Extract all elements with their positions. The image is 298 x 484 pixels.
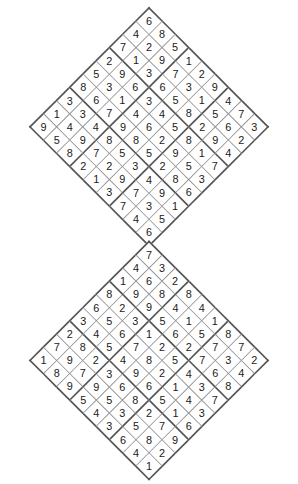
sudoku-digit: 6 [140,223,158,241]
sudoku-grid-bottom[interactable]: 7328418724684157341995627688231254376567… [29,240,269,480]
sudoku-digit: 1 [140,457,158,475]
sudoku-grid-top[interactable]: 6851294734297315627136582942963458175314… [29,7,269,247]
sudoku-pair-canvas: 6851294734297315627136582942963458175314… [0,0,298,484]
